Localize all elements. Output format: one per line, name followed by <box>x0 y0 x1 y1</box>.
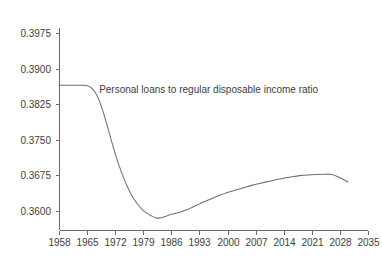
x-tick-label: 1958 <box>48 237 71 248</box>
series-annotation-label: Personal loans to regular disposable inc… <box>99 84 318 95</box>
y-tick-label: 0.3825 <box>20 99 51 110</box>
y-tick-label: 0.3900 <box>20 64 51 75</box>
y-tick-label: 0.3675 <box>20 170 51 181</box>
x-tick-label: 2021 <box>301 237 324 248</box>
x-tick-label: 1993 <box>188 237 211 248</box>
chart-container: 0.36000.36750.37500.38250.39000.3975 195… <box>0 0 382 264</box>
x-tick-label: 2035 <box>357 237 380 248</box>
y-axis-ticks: 0.36000.36750.37500.38250.39000.3975 <box>20 28 59 217</box>
x-tick-label: 1979 <box>132 237 155 248</box>
x-tick-label: 1965 <box>76 237 99 248</box>
x-tick-label: 1986 <box>160 237 183 248</box>
y-tick-label: 0.3750 <box>20 135 51 146</box>
x-tick-label: 2014 <box>273 237 296 248</box>
x-tick-label: 2007 <box>245 237 268 248</box>
x-axis-ticks: 1958196519721979198619932000200720142021… <box>48 231 380 249</box>
x-tick-label: 2000 <box>217 237 240 248</box>
series-line-personal-loans-ratio <box>59 85 348 218</box>
line-chart: 0.36000.36750.37500.38250.39000.3975 195… <box>0 0 382 264</box>
x-tick-label: 1972 <box>104 237 127 248</box>
y-tick-label: 0.3600 <box>20 206 51 217</box>
y-tick-label: 0.3975 <box>20 28 51 39</box>
x-tick-label: 2028 <box>329 237 352 248</box>
